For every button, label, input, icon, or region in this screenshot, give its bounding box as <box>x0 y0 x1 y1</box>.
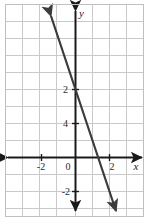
y-tick-label-4: 4 <box>63 118 68 129</box>
x-axis-label: x <box>133 160 139 172</box>
origin-label: 0 <box>66 161 71 172</box>
y-tick-label-neg2: -2 <box>62 186 70 197</box>
graph-canvas: y x 0 4 2 -2 -2 2 <box>0 0 153 224</box>
coordinate-plane-graph: y x 0 4 2 -2 -2 2 <box>0 0 153 224</box>
y-axis-label: y <box>78 7 84 19</box>
y-tick-label-2: 2 <box>63 84 68 95</box>
x-tick-label-neg2: -2 <box>37 161 45 172</box>
x-tick-label-2: 2 <box>110 161 115 172</box>
